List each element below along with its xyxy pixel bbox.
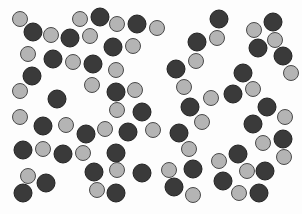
light-circle xyxy=(109,63,124,78)
dark-circle xyxy=(264,13,282,31)
light-circle xyxy=(210,31,225,46)
light-circle xyxy=(110,103,125,118)
dark-circle xyxy=(84,55,102,73)
dark-circle xyxy=(48,90,66,108)
dark-circle xyxy=(85,163,103,181)
light-circle xyxy=(85,78,100,93)
circle-field xyxy=(0,0,302,214)
dark-circle xyxy=(54,145,72,163)
light-circle xyxy=(83,29,98,44)
light-circle xyxy=(126,39,141,54)
light-circle xyxy=(232,186,247,201)
dark-circle xyxy=(181,98,199,116)
dark-circle xyxy=(256,162,274,180)
dark-circle xyxy=(14,184,32,202)
dark-circle xyxy=(274,130,292,148)
light-circle xyxy=(278,110,293,125)
light-circle xyxy=(186,188,201,203)
dark-circle xyxy=(104,38,122,56)
dark-circle xyxy=(244,115,262,133)
light-circle xyxy=(76,146,91,161)
light-circle xyxy=(59,118,74,133)
dark-circle xyxy=(14,141,32,159)
dark-circle xyxy=(128,15,146,33)
light-circle xyxy=(110,17,125,32)
light-circle xyxy=(247,23,262,38)
light-circle xyxy=(182,142,197,157)
light-circle xyxy=(13,84,28,99)
light-circle xyxy=(268,33,283,48)
dark-circle xyxy=(214,172,232,190)
light-circle xyxy=(284,66,299,81)
light-circle xyxy=(21,169,36,184)
dark-circle xyxy=(34,117,52,135)
light-circle xyxy=(36,142,51,157)
dark-circle xyxy=(119,123,137,141)
dark-circle xyxy=(37,174,55,192)
dark-circle xyxy=(77,125,95,143)
light-circle xyxy=(146,123,161,138)
dark-circle xyxy=(91,8,109,26)
light-circle xyxy=(13,110,28,125)
dark-circle xyxy=(24,23,42,41)
light-circle xyxy=(98,122,113,137)
dark-circle xyxy=(210,10,228,28)
light-circle xyxy=(90,183,105,198)
dark-circle xyxy=(224,85,242,103)
dark-circle xyxy=(234,64,252,82)
dark-circle xyxy=(184,160,202,178)
light-circle xyxy=(66,55,81,70)
light-circle xyxy=(189,54,204,69)
light-circle xyxy=(110,163,125,178)
light-circle xyxy=(177,80,192,95)
dark-circle xyxy=(61,29,79,47)
dark-circle xyxy=(133,103,151,121)
dark-circle xyxy=(44,50,62,68)
light-circle xyxy=(73,12,88,27)
dark-circle xyxy=(167,60,185,78)
dark-circle xyxy=(165,178,183,196)
dark-circle xyxy=(107,83,125,101)
dark-circle xyxy=(107,144,125,162)
light-circle xyxy=(13,12,28,27)
light-circle xyxy=(212,154,227,169)
dark-circle xyxy=(188,33,206,51)
light-circle xyxy=(277,150,292,165)
light-circle xyxy=(256,136,271,151)
dark-circle xyxy=(274,47,292,65)
dark-circle xyxy=(249,39,267,57)
dark-circle xyxy=(258,98,276,116)
light-circle xyxy=(195,115,210,130)
light-circle xyxy=(128,83,143,98)
light-circle xyxy=(204,91,219,106)
light-circle xyxy=(21,47,36,62)
light-circle xyxy=(240,164,255,179)
light-circle xyxy=(44,28,59,43)
dark-circle xyxy=(229,145,247,163)
dark-circle xyxy=(250,184,268,202)
dark-circle xyxy=(107,184,125,202)
light-circle xyxy=(162,163,177,178)
dark-circle xyxy=(133,164,151,182)
dark-circle xyxy=(23,67,41,85)
dark-circle xyxy=(170,124,188,142)
light-circle xyxy=(150,21,165,36)
light-circle xyxy=(246,82,261,97)
